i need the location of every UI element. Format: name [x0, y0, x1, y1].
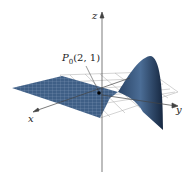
y-axis-label: y	[176, 104, 182, 115]
surface-plot	[0, 0, 192, 178]
point-coords: (2, 1)	[73, 52, 100, 63]
z-axis-label: z	[92, 10, 97, 21]
x-axis-label: x	[28, 113, 34, 124]
point-p0	[97, 91, 101, 95]
point-name: P	[62, 52, 69, 63]
surface-hump	[118, 56, 163, 130]
point-label: P0(2, 1)	[62, 52, 100, 66]
